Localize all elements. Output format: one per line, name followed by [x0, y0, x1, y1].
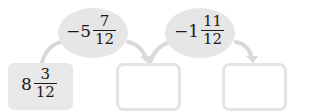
- answer-box-2[interactable]: [224, 65, 286, 110]
- denominator: 12: [93, 30, 116, 47]
- denominator: 12: [201, 30, 224, 47]
- whole-part: 1: [188, 21, 199, 41]
- connector-arrow: [128, 42, 146, 58]
- connector-arrow: [42, 42, 62, 62]
- fraction: 7 12: [93, 14, 116, 47]
- whole-part: 8: [21, 74, 32, 94]
- operation-1-value: − 5 7 12: [66, 14, 116, 47]
- fraction: 11 12: [201, 14, 224, 47]
- minus-sign: −: [66, 21, 80, 41]
- whole-part: 5: [80, 21, 91, 41]
- numerator: 11: [201, 14, 224, 30]
- numerator: 3: [39, 67, 53, 83]
- answer-box-1[interactable]: [118, 65, 180, 110]
- fraction: 3 12: [34, 67, 57, 100]
- denominator: 12: [34, 83, 57, 100]
- arrow-head-icon: [246, 56, 258, 63]
- minus-sign: −: [174, 21, 188, 41]
- connector-arrow: [236, 42, 252, 58]
- connector-arrow: [150, 42, 170, 62]
- start-value: 8 3 12: [21, 67, 57, 100]
- numerator: 7: [98, 14, 112, 30]
- operation-2-value: − 1 11 12: [174, 14, 224, 47]
